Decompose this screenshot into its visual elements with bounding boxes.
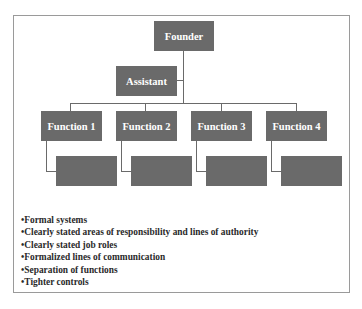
- function-3-box: Function 3: [191, 111, 252, 141]
- bullet-item: Formalized lines of communication: [21, 251, 258, 263]
- function-bus-line: [70, 103, 297, 104]
- sub-2-connector-h: [121, 171, 131, 172]
- function-1-label: Function 1: [47, 121, 95, 132]
- sub-1-connector-v: [46, 141, 47, 172]
- sub-4-connector-v: [271, 141, 272, 172]
- sub-3-connector-h: [196, 171, 206, 172]
- function-3-drop: [221, 103, 222, 111]
- function-4-box: Function 4: [266, 111, 327, 141]
- assistant-box: Assistant: [116, 66, 177, 96]
- sub-2-connector-v: [121, 141, 122, 172]
- function-2-label: Function 2: [122, 121, 170, 132]
- function-1-box: Function 1: [41, 111, 102, 141]
- function-2-box: Function 2: [116, 111, 177, 141]
- bullet-item: Clearly stated areas of responsibility a…: [21, 226, 258, 238]
- sub-box-2: [131, 156, 192, 186]
- function-1-drop: [70, 103, 71, 111]
- assistant-label: Assistant: [126, 76, 167, 87]
- bullet-item: Separation of functions: [21, 264, 258, 276]
- bullet-item: Formal systems: [21, 214, 258, 226]
- sub-1-connector-h: [46, 171, 56, 172]
- assistant-connector: [177, 80, 183, 81]
- founder-box: Founder: [154, 21, 214, 51]
- bullet-item: Tighter controls: [21, 276, 258, 288]
- function-3-label: Function 3: [197, 121, 245, 132]
- function-4-label: Function 4: [272, 121, 320, 132]
- sub-3-connector-v: [196, 141, 197, 172]
- bullet-item: Clearly stated job roles: [21, 239, 258, 251]
- function-2-drop: [145, 103, 146, 111]
- sub-box-4: [281, 156, 342, 186]
- sub-box-3: [206, 156, 267, 186]
- founder-label: Founder: [165, 31, 204, 42]
- founder-connector: [183, 51, 184, 104]
- sub-4-connector-h: [271, 171, 281, 172]
- characteristics-list: Formal systems Clearly stated areas of r…: [21, 214, 258, 288]
- function-4-drop: [296, 103, 297, 111]
- sub-box-1: [56, 156, 117, 186]
